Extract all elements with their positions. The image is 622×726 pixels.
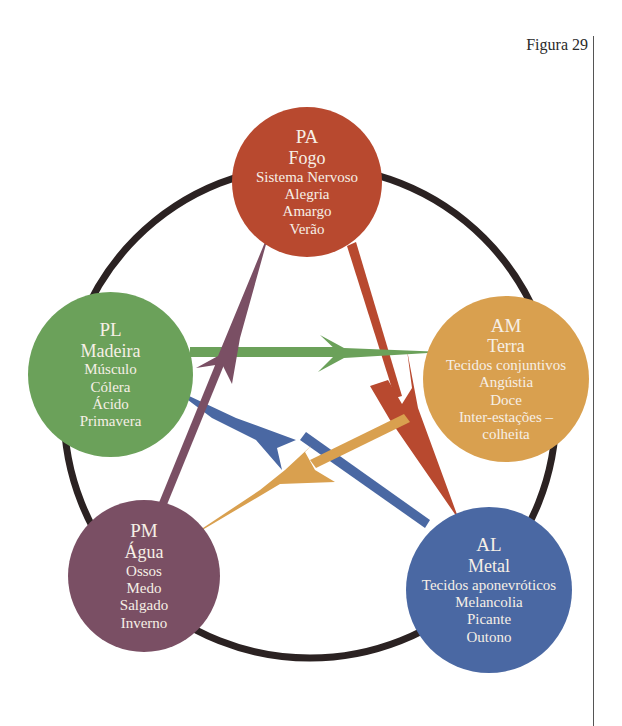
node-line: Doce [490, 392, 522, 409]
node-metal-al: AL Metal Tecidos aponevróticos Melancoli… [406, 507, 572, 673]
node-line: Cólera [91, 379, 131, 396]
node-line: Amargo [283, 203, 332, 220]
node-line: Medo [127, 580, 162, 597]
node-line: Tecidos conjuntivos [446, 357, 566, 374]
node-abbr: AM [491, 315, 522, 337]
node-element: Fogo [288, 148, 325, 169]
node-line: Ácido [92, 396, 129, 413]
node-line: Salgado [120, 597, 168, 614]
node-fire-pa: PA Fogo Sistema Nervoso Alegria Amargo V… [232, 107, 382, 257]
node-earth-am: AM Terra Tecidos conjuntivos Angústia Do… [423, 296, 589, 462]
node-abbr: PL [99, 319, 121, 341]
node-element: Terra [487, 336, 525, 357]
node-line: Inverno [121, 615, 168, 632]
node-abbr: PM [130, 520, 157, 542]
node-abbr: AL [476, 534, 501, 556]
node-line: Alegria [285, 186, 330, 203]
node-line: Ossos [126, 563, 162, 580]
node-wood-pl: PL Madeira Músculo Cólera Ácido Primaver… [28, 292, 193, 457]
node-line: Outono [467, 629, 512, 646]
node-element: Água [125, 542, 164, 563]
node-line: Angústia [479, 374, 533, 391]
node-line: Inter-estações – [459, 409, 553, 426]
node-water-pm: PM Água Ossos Medo Salgado Inverno [68, 500, 220, 652]
node-element: Madeira [81, 341, 141, 362]
node-line: colheita [482, 426, 529, 443]
node-line: Primavera [80, 413, 142, 430]
node-line: Melancolia [455, 594, 522, 611]
node-line: Picante [467, 611, 511, 628]
node-line: Verão [290, 221, 325, 238]
arrow-am-to-pm [182, 414, 410, 542]
node-element: Metal [468, 556, 510, 577]
node-abbr: PA [296, 126, 319, 148]
node-line: Músculo [84, 361, 137, 378]
node-line: Sistema Nervoso [256, 169, 358, 186]
node-line: Tecidos aponevróticos [422, 577, 556, 594]
